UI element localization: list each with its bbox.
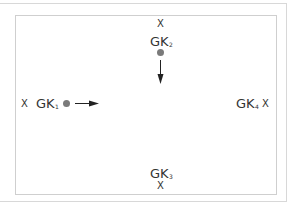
gk1-arrow-right-icon [75,99,100,108]
gk1-x-mark: X [21,99,28,109]
gk2-x-mark: X [157,19,164,29]
gk2-dot [157,49,164,56]
gk1-label: GK1 [36,97,59,112]
gk2-label: GK2 [150,35,173,50]
gk1-dot [63,100,70,107]
gk4-label: GK4 [236,97,259,112]
gk4-x-mark: X [262,99,269,109]
gk3-x-mark: X [157,181,164,191]
gk2-arrow-down-icon [156,60,165,85]
